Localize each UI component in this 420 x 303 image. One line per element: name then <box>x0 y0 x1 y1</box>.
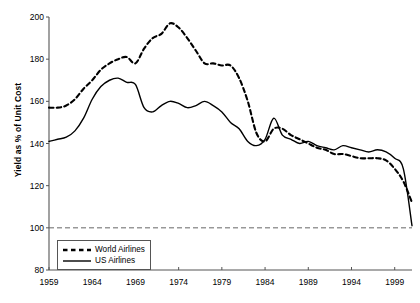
series-line-world-airlines <box>49 23 412 202</box>
legend-label: US Airlines <box>95 256 135 265</box>
legend-item-us-airlines: US Airlines <box>62 255 145 266</box>
legend-label: World Airlines <box>95 245 145 254</box>
legend-item-world-airlines: World Airlines <box>62 244 145 255</box>
series-line-us-airlines <box>49 78 412 226</box>
solid-line-key-icon <box>62 256 92 265</box>
chart-legend: World AirlinesUS Airlines <box>57 240 151 270</box>
chart-container: Yield as % of Unit Cost 8010012014016018… <box>0 0 420 303</box>
dashed-line-key-icon <box>62 245 92 254</box>
